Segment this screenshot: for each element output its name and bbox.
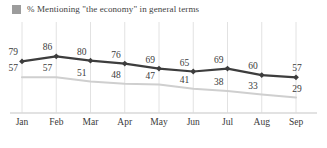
data-label: 33 <box>248 81 258 91</box>
data-label: 60 <box>248 61 258 71</box>
data-label: 80 <box>77 47 87 57</box>
data-point-marker <box>88 58 94 64</box>
x-axis-tick-label: Jun <box>187 118 200 128</box>
data-point-marker <box>122 61 128 67</box>
data-label: 41 <box>180 75 190 85</box>
data-label: 69 <box>146 55 156 65</box>
data-label: 79 <box>9 47 19 57</box>
data-label: 38 <box>214 77 224 87</box>
x-axis-tick-label: Jul <box>222 118 233 128</box>
x-axis-tick-label: Mar <box>83 118 99 128</box>
data-point-marker <box>156 66 162 72</box>
data-label: 51 <box>77 68 87 78</box>
data-label: 76 <box>111 50 121 60</box>
x-axis-labels: JanFebMarAprMayJunJulAugSep <box>0 118 327 138</box>
x-axis-tick-label: May <box>150 118 167 128</box>
x-axis-tick-label: Aug <box>254 118 270 128</box>
data-label: 69 <box>214 55 224 65</box>
x-axis-tick-label: Sep <box>289 118 303 128</box>
square-swatch-icon <box>12 5 21 14</box>
data-point-marker <box>19 58 25 64</box>
data-point-marker <box>259 72 265 78</box>
data-label: 47 <box>146 71 156 81</box>
data-point-marker <box>53 53 59 59</box>
x-axis-tick-label: Jan <box>16 118 29 128</box>
data-point-marker <box>293 74 299 80</box>
data-label: 57 <box>9 63 19 73</box>
data-label: 57 <box>43 63 53 73</box>
chart-legend: % Mentioning "the economy" in general te… <box>12 5 199 14</box>
data-label: 57 <box>292 63 302 73</box>
data-label: 48 <box>111 70 121 80</box>
data-point-marker <box>225 66 231 72</box>
x-axis-tick-label: Apr <box>117 118 132 128</box>
data-point-marker <box>190 69 196 75</box>
x-axis-tick-label: Feb <box>49 118 63 128</box>
chart-container: % Mentioning "the economy" in general te… <box>0 0 327 148</box>
data-label: 86 <box>43 42 53 52</box>
legend-label: % Mentioning "the economy" in general te… <box>27 5 199 14</box>
data-label: 65 <box>180 58 190 68</box>
plot-area: 575751484741383329798680766965696057 <box>0 22 327 117</box>
data-label: 29 <box>292 84 302 94</box>
line-chart-svg: 575751484741383329798680766965696057 <box>0 22 327 117</box>
